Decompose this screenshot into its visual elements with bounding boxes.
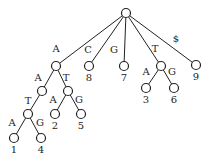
leaf-node [77,110,86,119]
edge-labels: ACGT$ATTAGAGAG [7,33,179,128]
edge-label: A [7,117,16,128]
leaf-node [10,134,19,143]
edge-label: G [110,44,118,55]
leaf-index-label: 5 [78,120,84,131]
tree-edge [57,95,66,110]
leaf-node [170,84,179,93]
tree-edge [16,118,25,134]
tree-edge [130,16,193,63]
internal-node [157,62,166,71]
leaf-node [37,134,46,143]
tree-edge [30,95,39,110]
internal-node [24,110,33,119]
leaf-index-label: 8 [86,72,92,83]
internal-node [122,9,131,18]
edge-label: A [51,43,60,54]
leaf-index-label: 6 [171,94,177,105]
suffix-tree-diagram: ACGT$ATTAGAGAG 879251436 [0,0,210,163]
edge-label: A [48,94,57,105]
edge-label: G [168,66,176,77]
edge-label: T [63,72,70,83]
edge-label: C [84,44,92,55]
leaf-node [85,62,94,71]
tree-edge [60,16,123,64]
leaf-index-label: 7 [121,72,127,83]
tree-edge [149,70,159,85]
edge-label: $ [173,33,179,44]
leaf-index-label: 9 [193,71,199,82]
internal-node [64,87,73,96]
internal-node [52,62,61,71]
leaf-index-label: 1 [11,144,17,155]
internal-node [38,87,47,96]
leaf-index-label: 2 [52,120,58,131]
leaf-node [120,62,129,71]
edge-label: A [33,72,42,83]
tree-edge [124,17,126,61]
edge-label: G [75,94,83,105]
edge-label: T [25,95,32,106]
tree-edge [128,17,158,62]
leaf-node [142,84,151,93]
edge-label: T [152,43,159,54]
leaf-node [51,110,60,119]
leaf-node [192,61,201,70]
edge-label: G [36,117,44,128]
leaf-index-label: 4 [38,144,44,155]
tree-edge [92,17,124,63]
edge-label: A [141,66,150,77]
leaf-index-label: 3 [143,94,149,105]
tree-edge [44,70,54,87]
